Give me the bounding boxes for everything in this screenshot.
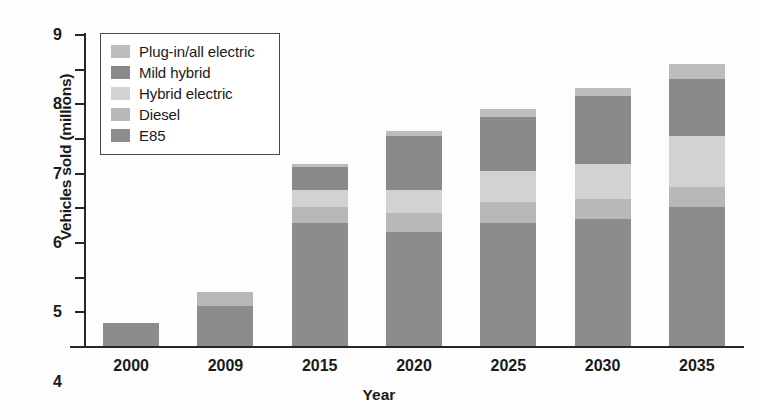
legend-swatch-icon	[111, 87, 130, 100]
y-tick-label: 9	[53, 27, 62, 43]
y-tick-label: 6	[53, 235, 62, 251]
bar-segment	[575, 219, 631, 346]
bar-2025	[480, 109, 536, 346]
bar-segment	[480, 109, 536, 118]
bar-segment	[292, 223, 348, 346]
legend-item: E85	[111, 125, 271, 146]
bar-segment	[386, 190, 442, 213]
legend-swatch-icon	[111, 66, 130, 79]
x-tick-label: 2035	[637, 357, 757, 375]
legend-item: Mild hybrid	[111, 62, 271, 83]
legend-label: Plug-in/all electric	[139, 44, 255, 59]
bar-segment	[480, 171, 536, 202]
y-tick-mark: 8	[75, 69, 84, 71]
y-tick-mark: 3	[75, 242, 84, 244]
bar-2000	[103, 323, 159, 346]
chart-legend: Plug-in/all electricMild hybridHybrid el…	[100, 33, 280, 155]
bar-2035	[669, 64, 725, 347]
bar-2020	[386, 131, 442, 346]
bar-segment	[386, 213, 442, 232]
bar-segment	[103, 323, 159, 346]
y-tick-mark: 5	[75, 173, 84, 175]
bar-segment	[197, 292, 253, 306]
legend-swatch-icon	[111, 108, 130, 121]
bar-2015	[292, 164, 348, 346]
bar-segment	[480, 223, 536, 346]
y-axis-title: Vehicles sold (millions)	[57, 7, 75, 307]
x-axis-line	[70, 346, 744, 348]
legend-label: Mild hybrid	[139, 65, 210, 80]
legend-item: Plug-in/all electric	[111, 41, 271, 62]
legend-label: E85	[139, 128, 165, 143]
bar-2009	[197, 292, 253, 346]
y-tick-label: 5	[53, 304, 62, 320]
legend-swatch-icon	[111, 129, 130, 142]
legend-item: Diesel	[111, 104, 271, 125]
bar-segment	[292, 167, 348, 190]
bar-segment	[669, 207, 725, 346]
bar-segment	[669, 64, 725, 80]
bar-segment	[386, 232, 442, 346]
y-tick-mark: 1	[75, 311, 84, 313]
y-tick-mark: 4	[75, 207, 84, 209]
bar-segment	[292, 190, 348, 207]
bar-segment	[669, 136, 725, 186]
bar-segment	[197, 306, 253, 346]
bar-segment	[669, 79, 725, 136]
legend-item: Hybrid electric	[111, 83, 271, 104]
y-tick-mark: 0	[75, 346, 84, 348]
bar-segment	[575, 199, 631, 220]
bar-segment	[480, 117, 536, 171]
bar-segment	[480, 202, 536, 223]
y-tick-mark: 6	[75, 138, 84, 140]
y-tick-label: 7	[53, 165, 62, 181]
bar-segment	[669, 187, 725, 208]
bar-segment	[292, 207, 348, 223]
y-tick-mark: 2	[75, 277, 84, 279]
y-axis-line	[84, 33, 86, 347]
legend-swatch-icon	[111, 45, 130, 58]
stacked-bar-chart: Vehicles sold (millions) 0123456789 2000…	[0, 0, 758, 419]
x-axis-title: Year	[0, 386, 758, 404]
bar-segment	[386, 136, 442, 190]
y-tick-mark: 7	[75, 103, 84, 105]
legend-label: Diesel	[139, 107, 180, 122]
y-tick-mark: 9	[75, 34, 84, 36]
bar-segment	[575, 164, 631, 199]
bar-2030	[575, 88, 631, 346]
y-tick-label: 8	[53, 96, 62, 112]
bar-segment	[575, 88, 631, 97]
legend-label: Hybrid electric	[139, 86, 233, 101]
bar-segment	[575, 96, 631, 164]
